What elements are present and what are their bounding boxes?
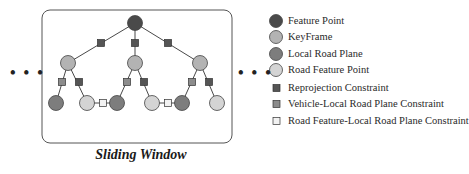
vehicle-plane-constraint-factor xyxy=(124,79,131,86)
reprojection-constraint-factor xyxy=(206,79,213,86)
road-feature-point-node xyxy=(145,96,160,111)
keyframe-node xyxy=(61,56,76,71)
feature-point-node xyxy=(128,16,143,31)
legend-label-reprojection-constraint: Reprojection Constraint xyxy=(288,82,389,94)
legend-label-road-feature-plane-constraint: Road Feature-Local Road Plane Constraint xyxy=(288,115,469,127)
vehicle-plane-constraint-factor xyxy=(189,79,196,86)
keyframe-node xyxy=(128,56,143,71)
legend-label-vehicle-plane-constraint: Vehicle-Local Road Plane Constraint xyxy=(288,98,444,110)
legend-square-icon xyxy=(273,118,280,125)
road-feature-point-node xyxy=(80,96,95,111)
legend-label-feature-point: Feature Point xyxy=(288,15,344,27)
reprojection-constraint-factor xyxy=(76,79,83,86)
legend-square-icon xyxy=(273,85,280,92)
sliding-window-caption: Sliding Window xyxy=(86,147,196,163)
legend-label-keyframe: KeyFrame xyxy=(288,31,332,43)
reprojection-constraint-factor xyxy=(165,40,172,47)
road-feature-plane-constraint-factor xyxy=(100,100,107,107)
legend-circle-icon xyxy=(270,15,283,28)
ellipsis-left: • • • xyxy=(10,64,45,82)
legend-label-local-road-plane: Local Road Plane xyxy=(288,48,363,60)
legend-square-icon xyxy=(273,101,280,108)
legend-circle-icon xyxy=(270,48,283,61)
reprojection-constraint-factor xyxy=(141,79,148,86)
vehicle-plane-constraint-factor xyxy=(59,79,66,86)
local-road-plane-node xyxy=(49,96,64,111)
keyframe-node xyxy=(193,56,208,71)
local-road-plane-node xyxy=(110,96,125,111)
legend-label-road-feature-point: Road Feature Point xyxy=(288,64,369,76)
legend-circle-icon xyxy=(270,31,283,44)
ellipsis-right: • • • xyxy=(238,64,273,82)
reprojection-constraint-factor xyxy=(132,40,139,47)
road-feature-point-node xyxy=(210,96,225,111)
local-road-plane-node xyxy=(175,96,190,111)
road-feature-plane-constraint-factor xyxy=(165,100,172,107)
reprojection-constraint-factor xyxy=(98,40,105,47)
